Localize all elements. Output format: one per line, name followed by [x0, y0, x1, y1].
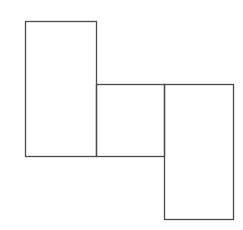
left-rectangle [26, 22, 97, 157]
right-rectangle [165, 85, 234, 220]
middle-square [97, 85, 165, 157]
three-rectangles-diagram [0, 0, 243, 230]
